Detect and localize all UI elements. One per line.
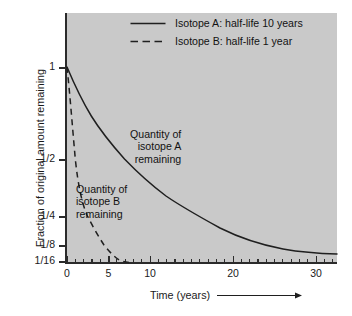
x-minor-tick [299,259,300,263]
y-tick-1-4 [59,216,66,218]
y-tick-label-1-2: 1/2 [0,153,55,164]
x-minor-tick [216,259,217,263]
x-axis-title-group: Time (years) [150,289,303,301]
legend-label-isotope-b: Isotope B: half-life 1 year [175,36,292,47]
x-minor-tick [266,259,267,263]
y-tick-label-1: 1 [0,61,55,72]
annotation-isotope-b-line1: Quantity of [76,183,127,195]
x-tick-10 [150,256,152,263]
x-tick-label-5: 5 [94,268,124,279]
x-tick-label-0: 0 [52,268,82,279]
x-minor-tick [91,259,92,263]
x-minor-tick [133,259,134,263]
annotation-isotope-b: Quantity of isotope B remaining [76,183,127,220]
x-minor-tick [282,259,283,263]
decay-chart-figure: 1 1/2 1/4 1/8 1/16 0 5 10 20 30 [0,0,352,316]
x-minor-tick [166,259,167,263]
x-minor-tick [191,259,192,263]
x-minor-tick [332,259,333,263]
x-minor-tick [83,259,84,263]
annotation-isotope-b-line2: isotope B [76,195,127,207]
legend-key-dashed-line-icon [130,37,166,46]
x-minor-tick [116,259,117,263]
x-tick-0 [67,256,69,263]
annotation-isotope-a-line2: isotope A [130,140,181,152]
y-tick-label-1-4: 1/4 [0,210,55,221]
x-minor-tick [100,259,101,263]
x-tick-label-30: 30 [301,268,331,279]
legend-item-isotope-b: Isotope B: half-life 1 year [130,36,303,47]
x-minor-tick [274,259,275,263]
x-minor-tick [224,259,225,263]
y-tick-1-2 [59,159,66,161]
y-tick-1-8 [59,245,66,247]
right-arrow-icon [217,291,303,300]
x-minor-tick [291,259,292,263]
x-tick-5 [108,256,110,263]
y-axis-title: Fraction of original amount remaining [34,41,46,276]
legend-item-isotope-a: Isotope A: half-life 10 years [130,18,303,29]
x-minor-tick [183,259,184,263]
x-minor-tick [324,259,325,263]
x-tick-30 [316,256,318,263]
x-tick-label-10: 10 [135,268,165,279]
x-minor-tick [257,259,258,263]
x-minor-tick [125,259,126,263]
x-axis-line [65,262,337,264]
x-minor-tick [249,259,250,263]
legend-key-solid-line-icon [130,19,166,28]
plot-panel [66,13,337,263]
x-minor-tick [158,259,159,263]
x-minor-tick [75,259,76,263]
annotation-isotope-b-line3: remaining [76,208,127,220]
x-axis-title: Time (years) [150,289,210,301]
annotation-isotope-a-line1: Quantity of [130,128,181,140]
x-minor-tick [307,259,308,263]
annotation-isotope-a: Quantity of isotope A remaining [130,128,181,165]
x-minor-tick [141,259,142,263]
x-minor-tick [241,259,242,263]
y-tick-1 [59,67,66,69]
x-tick-label-20: 20 [218,268,248,279]
annotation-isotope-a-line3: remaining [130,153,181,165]
x-minor-tick [199,259,200,263]
y-tick-label-1-16: 1/16 [0,255,55,266]
legend-label-isotope-a: Isotope A: half-life 10 years [175,18,303,29]
x-tick-20 [233,256,235,263]
x-minor-tick [208,259,209,263]
y-axis-line [65,13,67,264]
y-tick-label-1-8: 1/8 [0,239,55,250]
y-tick-1-16 [59,261,66,263]
legend: Isotope A: half-life 10 years Isotope B:… [130,18,303,47]
x-minor-tick [174,259,175,263]
